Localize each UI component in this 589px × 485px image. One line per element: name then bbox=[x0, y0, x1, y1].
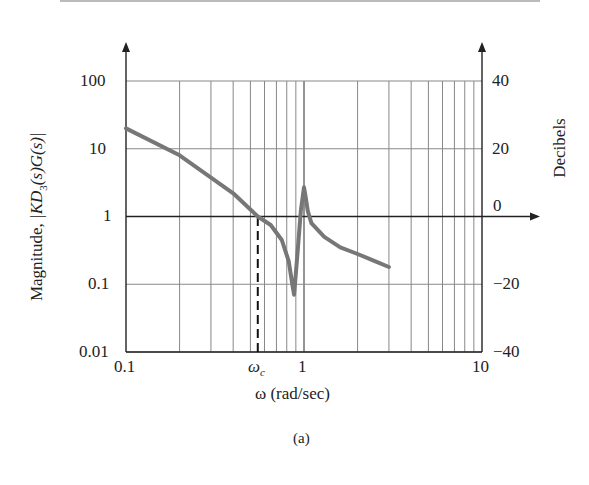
x-tick-1: 1 bbox=[298, 357, 307, 377]
db-tick-20: 20 bbox=[492, 139, 509, 159]
y-tick-0.01: 0.01 bbox=[79, 342, 109, 362]
axes bbox=[122, 42, 540, 352]
zero-db-arrow-icon bbox=[530, 213, 540, 221]
db-tick-minus40: −40 bbox=[493, 342, 520, 362]
omega-subscript: c bbox=[260, 366, 265, 378]
x-axis-title: ω (rad/sec) bbox=[255, 384, 330, 404]
left-axis-arrow-icon bbox=[122, 42, 130, 52]
omega-symbol: ω bbox=[248, 357, 260, 376]
y-axis-title-right: Decibels bbox=[550, 108, 570, 188]
y-tick-0.1: 0.1 bbox=[88, 274, 109, 294]
y-axis-title-left: Magnitude, |KD3(s)G(s)| bbox=[27, 117, 48, 317]
y-tick-1: 1 bbox=[103, 206, 112, 226]
db-tick-40: 40 bbox=[492, 71, 509, 91]
magnitude-curve bbox=[126, 128, 389, 294]
right-axis-arrow-icon bbox=[478, 42, 486, 52]
x-tick-0.1: 0.1 bbox=[114, 357, 135, 377]
grid-lines bbox=[126, 81, 537, 352]
y-tick-10: 10 bbox=[89, 139, 106, 159]
y-axis-title-text: Magnitude, bbox=[27, 219, 46, 301]
x-tick-omega-c: ωc bbox=[248, 357, 265, 378]
magnitude-line bbox=[126, 128, 389, 294]
db-tick-minus20: −20 bbox=[493, 274, 520, 294]
db-tick-0: 0 bbox=[493, 196, 502, 216]
x-tick-10: 10 bbox=[472, 357, 489, 377]
y-tick-100: 100 bbox=[80, 71, 106, 91]
y-axis-title-math: |KD3(s)G(s)| bbox=[27, 132, 46, 219]
figure-caption: (a) bbox=[293, 430, 310, 447]
